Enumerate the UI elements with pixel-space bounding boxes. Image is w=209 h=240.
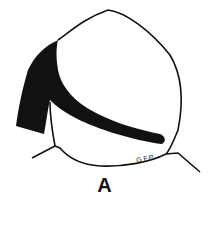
hair-lock <box>16 40 165 144</box>
figure-label: A <box>0 174 209 197</box>
shoulder-line-left <box>32 146 55 158</box>
shoulder-line-right <box>166 153 200 172</box>
